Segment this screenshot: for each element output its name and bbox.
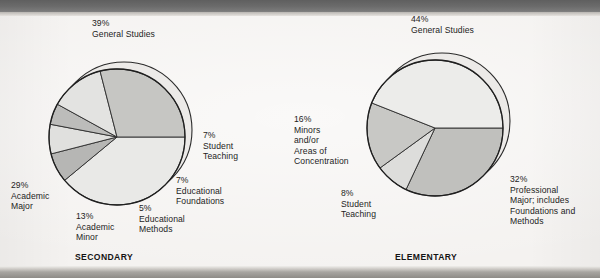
slice-label-elementary-student-teaching: 8% Student Teaching <box>341 188 376 220</box>
slice-label-secondary-educational-foundations: 7% Educational Foundations <box>176 175 224 207</box>
chart-caption-elementary: ELEMENTARY <box>395 252 457 262</box>
slice-label-elementary-general-studies: 44% General Studies <box>411 14 474 35</box>
chart-caption-secondary: SECONDARY <box>75 252 133 262</box>
slice-label-elementary-professional-major: 32% Professional Major; includes Foundat… <box>510 174 575 227</box>
slice-label-secondary-academic-minor: 13% Academic Minor <box>76 211 114 243</box>
slice-label-elementary-minors-areas: 16% Minors and/or Areas of Concentration <box>294 114 349 167</box>
slice-label-secondary-general-studies: 39% General Studies <box>92 18 155 39</box>
pie-elementary <box>367 53 510 196</box>
figure-page: 39% General Studies7% Student Teaching7%… <box>0 0 600 278</box>
slice-label-secondary-student-teaching: 7% Student Teaching <box>203 130 238 162</box>
slice-label-secondary-educational-methods: 5% Educational Methods <box>139 203 185 235</box>
pie-secondary <box>49 62 192 205</box>
slice-label-secondary-academic-major: 29% Academic Major <box>11 180 49 212</box>
